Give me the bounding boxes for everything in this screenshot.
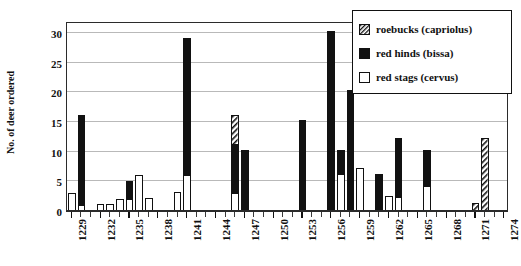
x-tick-mark [340,212,341,217]
x-tick-mark [465,212,466,217]
bar-segment [423,150,431,186]
legend-item-red-hinds: red hinds (bissa) [359,41,506,65]
bar [481,138,489,211]
bar-segment [347,90,355,211]
x-tick-label: 1262 [393,219,405,241]
x-tick-label: 1244 [220,219,232,241]
x-tick-mark [90,212,91,217]
y-tick-label: 25 [36,58,62,70]
x-tick-mark [417,212,418,218]
bar [231,115,239,211]
legend-label: red hinds (bissa) [376,47,453,59]
y-tick-label: 10 [36,147,62,159]
bar-segment [183,175,191,211]
x-tick-mark [167,212,168,217]
y-tick-label: 15 [36,117,62,129]
x-tick-mark [378,212,379,217]
x-tick-mark [494,212,495,217]
x-tick-mark [282,212,283,217]
x-tick-mark [273,212,274,218]
y-tick-label: 30 [36,28,62,40]
legend-label: roebucks (capriolus) [376,23,472,35]
bar [174,192,182,211]
bar-segment [337,150,345,174]
bar-segment [423,186,431,211]
x-tick-mark [484,212,485,217]
bar-segment [356,168,364,211]
x-tick-mark [186,212,187,218]
x-tick-label: 1271 [479,219,491,241]
legend: roebucks (capriolus) red hinds (bissa) r… [352,10,512,94]
deer-orders-bar-chart: No. of deer ordered 051015202530 1229123… [0,0,521,266]
x-tick-mark [109,212,110,217]
x-tick-mark [263,212,264,217]
legend-item-roebucks: roebucks (capriolus) [359,17,506,41]
bar [347,90,355,211]
x-axis-tick-labels: 1229123212351238124112441247125012531256… [66,219,508,265]
legend-label: red stags (cervus) [376,71,458,83]
bar-segment [231,193,239,211]
bar [395,138,403,211]
x-tick-mark [503,212,504,218]
x-tick-mark [138,212,139,217]
x-tick-mark [215,212,216,218]
bar-segment [135,175,143,211]
x-tick-mark [330,212,331,218]
x-tick-mark [225,212,226,217]
bar [241,150,249,211]
bar [135,175,143,211]
x-tick-mark [292,212,293,217]
x-tick-label: 1253 [306,219,318,241]
bar [183,38,191,211]
x-tick-mark [244,212,245,218]
x-tick-mark [157,212,158,218]
bar [337,150,345,211]
bar-segment [78,115,86,205]
x-tick-label: 1265 [422,219,434,241]
bar-segment [375,174,383,211]
y-axis-title: No. of deer ordered [2,52,18,172]
x-tick-label: 1235 [133,219,145,241]
x-tick-mark [80,212,81,217]
x-tick-mark [234,212,235,217]
bar [68,193,76,211]
x-tick-mark [398,212,399,217]
x-tick-mark [100,212,101,218]
hatched-swatch-icon [359,24,370,35]
bar [299,120,307,211]
x-tick-mark [311,212,312,217]
bar-segment [395,138,403,197]
x-tick-mark [71,212,72,218]
bar [356,168,364,211]
x-tick-mark [388,212,389,218]
bar-segment [327,31,335,211]
x-tick-label: 1247 [249,219,261,241]
bar-segment [337,174,345,211]
black-swatch-icon [359,48,370,59]
y-tick-label: 5 [36,176,62,188]
x-tick-label: 1232 [105,219,117,241]
bar-segment [231,115,239,145]
x-tick-mark [359,212,360,218]
bar-segment [126,181,134,198]
x-tick-mark [253,212,254,217]
x-tick-mark [205,212,206,217]
legend-item-red-stags: red stags (cervus) [359,65,506,89]
bar-segment [68,193,76,211]
x-tick-label: 1241 [191,219,203,241]
x-tick-mark [426,212,427,217]
bar-segment [241,150,249,211]
x-axis-tick-marks [66,212,508,218]
x-tick-label: 1250 [278,219,290,241]
x-axis-line [67,210,507,212]
x-tick-mark [148,212,149,217]
x-tick-mark [301,212,302,218]
y-axis-tick-labels: 051015202530 [34,0,62,266]
bar [327,31,335,211]
bar [126,181,134,211]
y-tick-label: 0 [36,206,62,218]
x-tick-mark [474,212,475,218]
x-tick-mark [321,212,322,217]
bar-segment [174,192,182,211]
bar [375,174,383,211]
